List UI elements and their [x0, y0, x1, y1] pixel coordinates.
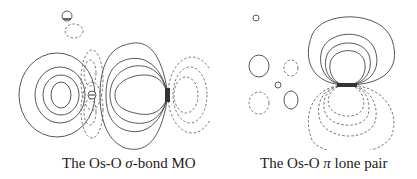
o-atom-icon	[337, 83, 357, 87]
pi-lone-pair-contour-plot	[207, 0, 417, 150]
o-atom-icon	[165, 88, 170, 102]
sigma-bond-panel: The Os-O σ-bond MO	[0, 0, 210, 179]
os-atom-icon	[275, 82, 281, 88]
atom-marker-icon	[253, 15, 259, 21]
pi-lone-pair-panel: The Os-O π lone pair	[207, 0, 417, 179]
sigma-bond-contour-plot	[0, 0, 210, 150]
sigma-bond-caption: The Os-O σ-bond MO	[62, 155, 196, 172]
pi-lone-pair-caption: The Os-O π lone pair	[260, 155, 388, 172]
